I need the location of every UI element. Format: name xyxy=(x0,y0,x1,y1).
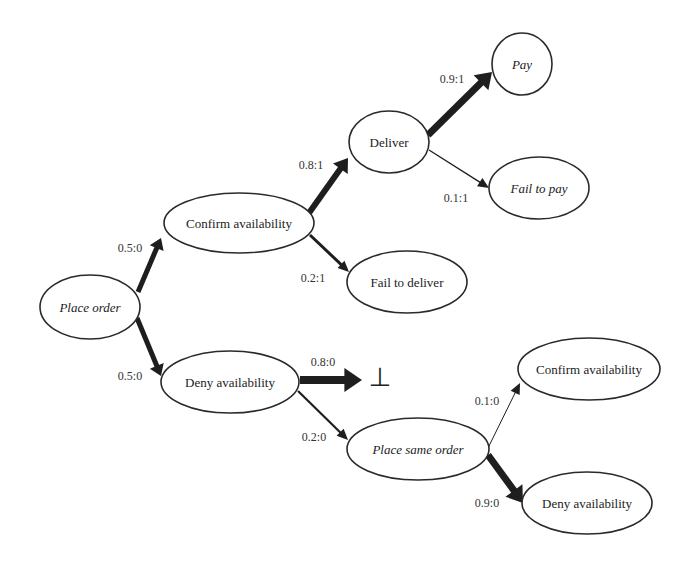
node-deliver: Deliver xyxy=(349,111,429,173)
edge-probability-label: 0.2:1 xyxy=(301,271,325,285)
edge-probability-label: 0.1:0 xyxy=(475,394,499,408)
node-deny-availability-1: Deny availability xyxy=(161,351,299,413)
node-confirm-availability-2: Confirm availability xyxy=(518,338,660,400)
node-pay: Pay xyxy=(492,33,552,95)
node-label: Place same order xyxy=(371,442,464,457)
node-fail-to-pay: Fail to pay xyxy=(489,157,589,219)
node-label: Fail to pay xyxy=(509,181,567,196)
edge-line xyxy=(298,391,341,433)
edge-deny_availability_1-to-bottom: 0.8:0 xyxy=(300,355,362,392)
edge-deny_availability_1-to-place_same_order: 0.2:0 xyxy=(298,391,348,444)
edge-probability-label: 0.9:0 xyxy=(475,496,499,510)
node-fail-to-deliver: Fail to deliver xyxy=(347,251,467,313)
node-label: Deny availability xyxy=(542,496,632,511)
arrowhead-icon xyxy=(477,178,489,188)
diagram-canvas: 0.5:00.5:00.8:10.2:10.9:10.1:10.8:00.2:0… xyxy=(0,0,695,565)
edge-deliver-to-pay: 0.9:1 xyxy=(428,72,492,135)
node-confirm-availability-1: Confirm availability xyxy=(164,193,314,253)
bottom-symbol: ⊥ xyxy=(369,362,392,392)
edge-probability-label: 0.8:1 xyxy=(299,158,323,172)
node-label: Place order xyxy=(58,300,121,315)
node-label: Deny availability xyxy=(185,375,275,390)
node-deny-availability-2: Deny availability xyxy=(522,472,652,534)
node-label: Deliver xyxy=(370,135,410,150)
edge-line xyxy=(309,168,341,213)
edge-line xyxy=(137,318,157,367)
edge-confirm_availability_1-to-fail_to_deliver: 0.2:1 xyxy=(301,235,349,285)
node-place-order: Place order xyxy=(40,275,140,339)
edge-probability-label: 0.8:0 xyxy=(311,355,335,369)
node-label: Pay xyxy=(511,57,532,72)
nodes-layer: Place orderConfirm availabilityDeny avai… xyxy=(40,33,660,534)
edge-probability-label: 0.9:1 xyxy=(440,72,464,86)
edge-probability-label: 0.5:0 xyxy=(118,241,142,255)
edge-probability-label: 0.1:1 xyxy=(444,191,468,205)
arrowhead-icon xyxy=(344,368,362,392)
node-place-same-order: Place same order xyxy=(347,418,489,480)
edge-probability-label: 0.2:0 xyxy=(302,430,326,444)
edge-deliver-to-fail_to_pay: 0.1:1 xyxy=(429,150,489,205)
edge-probability-label: 0.5:0 xyxy=(118,369,142,383)
edge-confirm_availability_1-to-deliver: 0.8:1 xyxy=(299,158,348,213)
edge-line xyxy=(428,82,482,135)
edge-line xyxy=(429,150,481,183)
edge-line xyxy=(310,235,342,265)
node-label: Confirm availability xyxy=(536,362,642,377)
node-label: Confirm availability xyxy=(186,216,292,231)
edge-line xyxy=(488,455,515,491)
node-label: Fail to deliver xyxy=(371,275,445,290)
